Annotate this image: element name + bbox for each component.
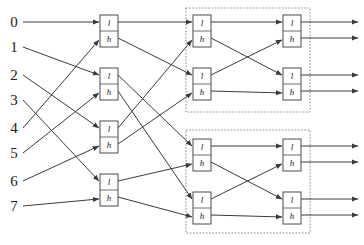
wire-s2b1.h-to-s3b1.h (211, 91, 282, 93)
wire-s1b1.l-to-s2b2.l (118, 75, 192, 146)
input-label-2: 2 (10, 67, 18, 83)
wire-input-1 (23, 47, 99, 75)
highpass-label: h (107, 34, 112, 44)
input-label-6: 6 (10, 173, 18, 189)
filter-box-s1b0: lh (100, 15, 118, 47)
filter-box-s3b1: lh (283, 68, 301, 100)
filter-box-s1b2: lh (100, 121, 118, 153)
filter-box-s2b1: lh (193, 68, 211, 100)
filter-box-s3b2: lh (283, 139, 301, 171)
wire-s2b3.h-to-s3b3.h (211, 215, 282, 217)
wires-layer (23, 22, 358, 217)
filter-box-s3b0: lh (283, 15, 301, 47)
wire-s1b2.h-to-s2b1.h (118, 93, 192, 144)
input-label-1: 1 (10, 39, 18, 55)
filter-box-s2b0: lh (193, 15, 211, 47)
filter-bank-diagram: lhlhlhlhlhlhlhlhlhlhlhlh 01234567 (0, 0, 364, 245)
diagram-canvas: lhlhlhlhlhlhlhlhlhlhlhlh 01234567 (0, 0, 364, 245)
wire-s1b2.l-to-s2b0.h (118, 40, 192, 128)
wire-s1b0.h-to-s2b1.l (118, 38, 192, 75)
input-labels-layer: 01234567 (10, 14, 18, 214)
highpass-label: h (290, 87, 295, 97)
filter-box-s2b3: lh (193, 192, 211, 224)
wire-input-7 (23, 199, 99, 206)
filter-box-s1b1: lh (100, 68, 118, 100)
highpass-label: h (107, 87, 112, 97)
wire-input-6 (23, 146, 99, 181)
highpass-label: h (290, 158, 295, 168)
input-label-0: 0 (10, 14, 18, 30)
input-label-3: 3 (10, 92, 18, 108)
highpass-label: h (107, 140, 112, 150)
wire-input-4 (23, 40, 99, 128)
input-label-5: 5 (10, 145, 18, 161)
highpass-label: h (290, 211, 295, 221)
highpass-label: h (200, 87, 205, 97)
highpass-label: h (290, 34, 295, 44)
wire-s1b3.l-to-s2b2.h (118, 164, 192, 181)
highpass-label: h (107, 193, 112, 203)
wire-s1b1.h-to-s2b3.l (118, 91, 192, 199)
filter-box-s1b3: lh (100, 174, 118, 206)
filter-box-s2b2: lh (193, 139, 211, 171)
filter-boxes-layer: lhlhlhlhlhlhlhlhlhlhlhlh (100, 15, 301, 224)
input-label-4: 4 (10, 120, 18, 136)
highpass-label: h (200, 211, 205, 221)
wire-input-3 (23, 100, 99, 181)
filter-box-s3b3: lh (283, 192, 301, 224)
highpass-label: h (200, 158, 205, 168)
wire-s1b3.h-to-s2b3.h (118, 197, 192, 217)
highpass-label: h (200, 34, 205, 44)
input-label-7: 7 (10, 198, 18, 214)
